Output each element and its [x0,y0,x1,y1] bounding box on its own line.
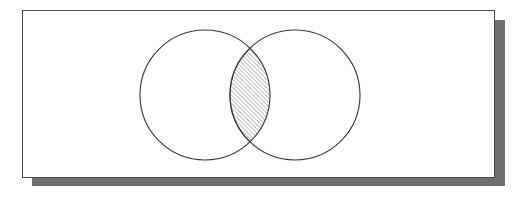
intersection-lens [230,30,360,160]
venn-diagram [0,0,527,198]
venn-intersection-group [230,30,360,160]
figure-root: Two-set Venn diagram with shaded interse… [0,0,527,198]
